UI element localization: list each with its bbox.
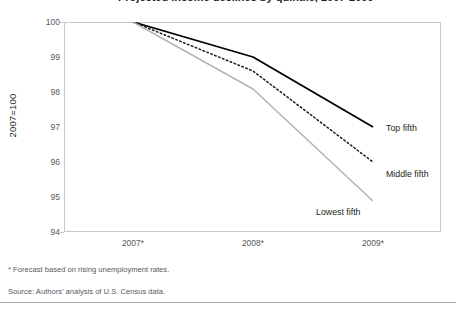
x-tick-label-2008: 2008* [223,238,283,248]
y-tick-label-100: 100 [26,18,60,26]
series-line-middle-fifth [133,22,373,162]
chart-title-clipped: Projected income declines by quintile, 2… [0,0,456,7]
y-tick-label-99: 99 [26,53,60,61]
footnote-source: Source: Authors' analysis of U.S. Census… [8,287,165,296]
y-tick-label-97: 97 [26,123,60,131]
series-line-lowest-fifth [133,22,373,201]
x-tick-label-2007: 2007* [103,238,163,248]
x-tick-label-2009: 2009* [343,238,403,248]
y-tick-label-98: 98 [26,88,60,96]
plot-lines [64,22,441,232]
y-tick-label-96: 96 [26,158,60,166]
y-tick-mark [60,232,64,233]
y-tick-label-94: 94 [26,228,60,236]
series-line-top-fifth [133,22,373,127]
y-axis-label: 2007=100 [7,76,18,156]
bottom-divider [0,302,456,303]
series-label-middle-fifth: Middle fifth [386,169,429,179]
series-label-top-fifth: Top fifth [386,123,417,133]
footnote-asterisk: * Forecast based on rising unemployment … [8,265,169,274]
series-label-lowest-fifth: Lowest fifth [316,207,361,217]
chart-figure: Projected income declines by quintile, 2… [0,0,456,309]
chart-title-text: Projected income declines by quintile, 2… [118,0,374,3]
y-tick-label-95: 95 [26,193,60,201]
